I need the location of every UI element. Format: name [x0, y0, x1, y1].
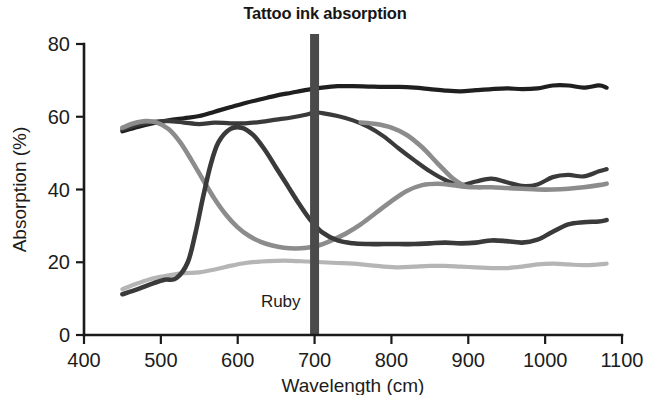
y-tick-label: 0	[59, 324, 70, 346]
y-tick-label: 40	[48, 179, 70, 201]
ruby-marker-label: Ruby	[261, 292, 301, 311]
x-axis-title: Wavelength (cm)	[282, 375, 425, 395]
x-tick-label: 1000	[523, 349, 568, 371]
chart-figure: Tattoo ink absorption Ruby 8060402004005…	[0, 0, 650, 395]
series-layer	[122, 85, 606, 294]
x-tick-label: 600	[221, 349, 254, 371]
ruby-marker-layer: Ruby	[261, 34, 319, 335]
series-rising-dark	[122, 127, 606, 294]
y-tick-label: 60	[48, 106, 70, 128]
y-tick-label: 80	[48, 33, 70, 55]
x-tick-label: 500	[144, 349, 177, 371]
y-axis-title: Absorption (%)	[9, 127, 30, 253]
x-tick-label: 700	[298, 349, 331, 371]
series-light-gray	[122, 261, 606, 289]
y-tick-label: 20	[48, 251, 70, 273]
x-tick-label: 400	[67, 349, 100, 371]
x-tick-label: 900	[452, 349, 485, 371]
x-tick-label: 800	[375, 349, 408, 371]
chart-plot-area: Ruby 80604020040050060070080090010001100…	[0, 0, 650, 395]
ruby-marker	[310, 34, 319, 335]
x-tick-label: 1100	[600, 349, 643, 371]
